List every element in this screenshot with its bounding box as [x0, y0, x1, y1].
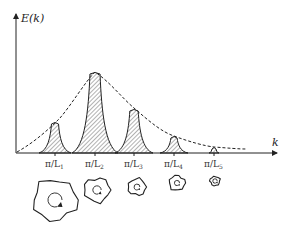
tick-label-5: π/L5: [204, 159, 223, 170]
peak-1: [39, 123, 71, 154]
eddy-5: [210, 176, 221, 186]
eddy-sketches: [34, 175, 221, 221]
rotation-arrow-icon: [138, 188, 140, 190]
eddy-1: [34, 181, 79, 222]
tick-label-2: π/L2: [85, 159, 104, 170]
y-axis-label: E(k): [20, 12, 44, 25]
tick-label-4: π/L4: [164, 159, 183, 170]
peak-5: [209, 148, 219, 154]
tick-label-3: π/L3: [124, 159, 143, 170]
energy-spectrum-diagram: E(k) k π/L1π/L2π/L3π/L4π/L5: [0, 0, 291, 228]
x-axis-label: k: [272, 136, 279, 149]
tick-label-1: π/L1: [45, 159, 64, 170]
rotation-arrow-icon: [216, 181, 218, 183]
wavenumber-ticks: π/L1π/L2π/L3π/L4π/L5: [45, 153, 223, 170]
eddy-4: [169, 175, 185, 190]
peak-2: [72, 73, 118, 154]
spectral-peaks: [39, 73, 219, 154]
rotation-arrow-icon: [98, 191, 101, 194]
eddy-2: [85, 178, 112, 204]
peak-3: [115, 110, 153, 154]
rotation-arrow-icon: [57, 202, 62, 207]
eddy-3: [128, 178, 146, 196]
rotation-arrow-icon: [178, 184, 180, 186]
